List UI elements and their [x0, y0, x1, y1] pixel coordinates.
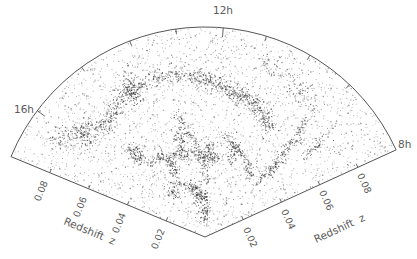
- tick-label-right-0.08: 0.08: [355, 171, 374, 195]
- tick-label-right-0.04: 0.04: [279, 207, 298, 231]
- tick-label-left-0.04: 0.04: [110, 211, 128, 235]
- redshift-wedge-plot: 12h 16h 8h 0.08 0.06 0.04 0.02 0.02 0.04…: [0, 0, 417, 259]
- tick-label-right-0.02: 0.02: [241, 225, 260, 249]
- tick-label-right-0.06: 0.06: [317, 188, 336, 212]
- tick-label-left-0.08: 0.08: [32, 179, 50, 203]
- hour-label-16h: 16h: [14, 103, 34, 115]
- right-axis-tick-labels: 0.02 0.04 0.06 0.08: [241, 171, 374, 249]
- tick-label-left-0.06: 0.06: [71, 195, 89, 219]
- hour-label-12h: 12h: [213, 4, 233, 16]
- tick-label-left-0.02: 0.02: [149, 227, 167, 251]
- axis-title-right: Redshift z: [312, 211, 367, 245]
- hour-label-8h: 8h: [398, 138, 411, 150]
- galaxy-points: [15, 28, 392, 234]
